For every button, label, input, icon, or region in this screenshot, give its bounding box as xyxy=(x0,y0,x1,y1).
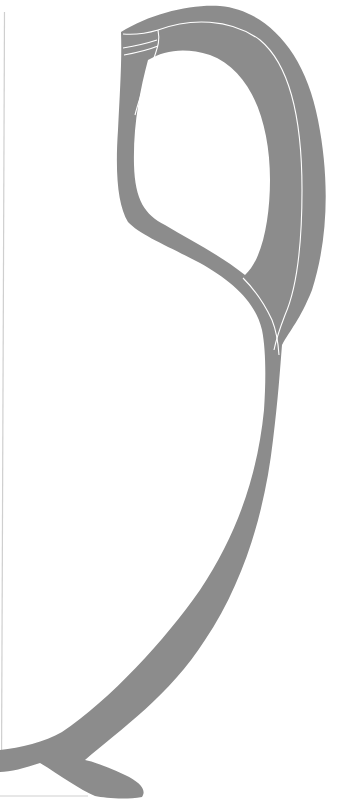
center-axis-line xyxy=(2,12,5,770)
vessel-profile-drawing xyxy=(0,0,341,811)
vessel-wall-profile xyxy=(0,6,326,799)
